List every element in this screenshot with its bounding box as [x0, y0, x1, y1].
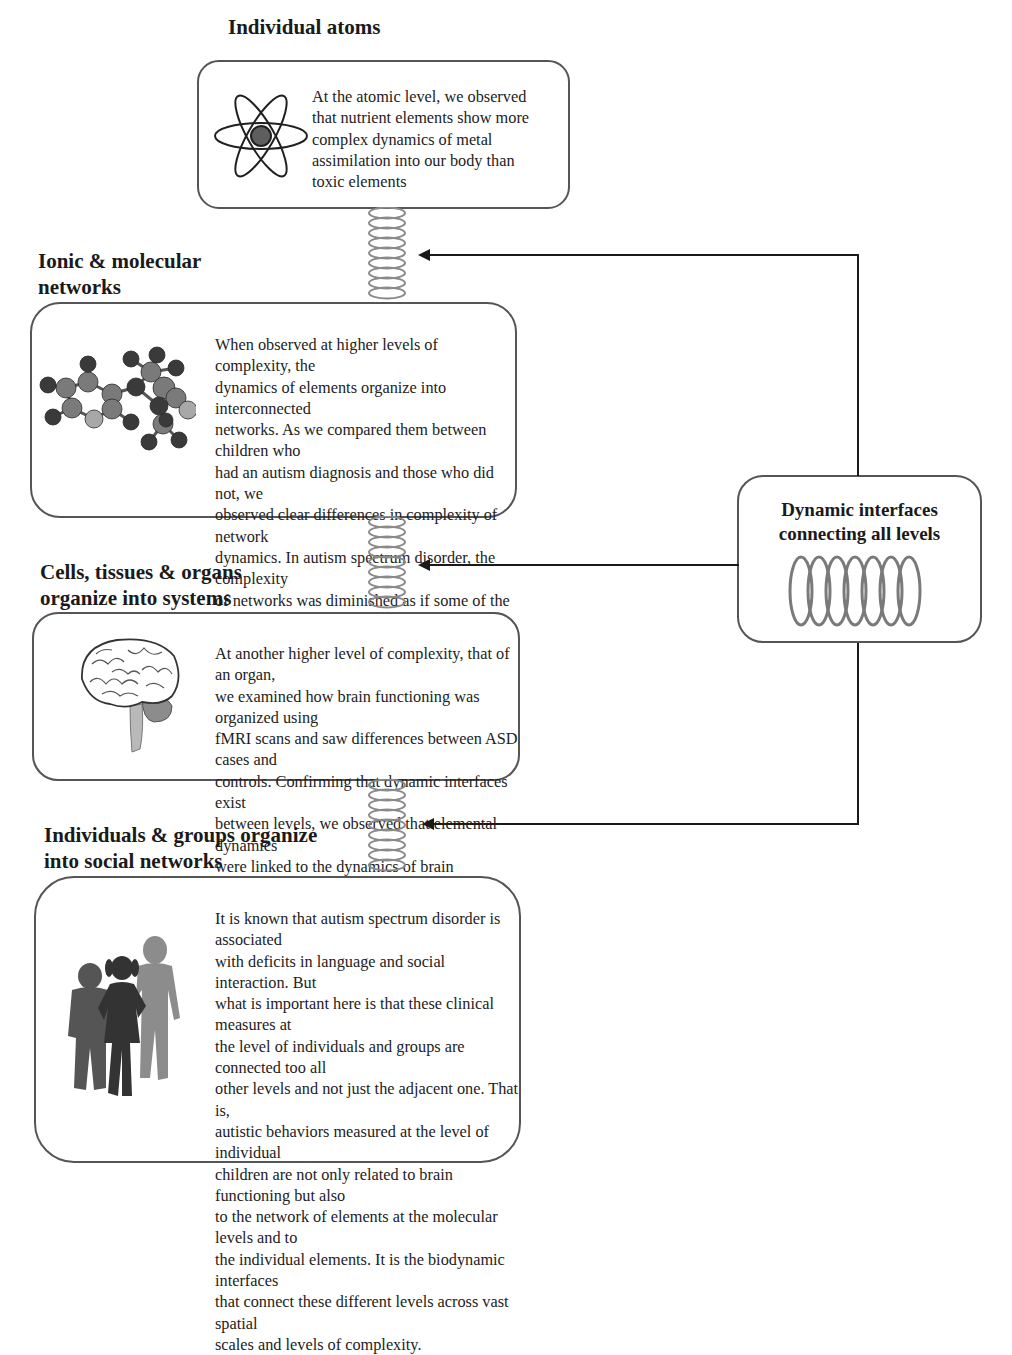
heading-line: organize into systems	[40, 585, 242, 611]
children-group-icon	[60, 928, 190, 1108]
text-line: what is important here is that these cli…	[215, 993, 520, 1036]
helix-spring-icon	[787, 555, 933, 627]
text-line: dynamics of elements organize into inter…	[215, 377, 515, 420]
text-line: autistic behaviors measured at the level…	[215, 1121, 520, 1164]
text-line: that nutrient elements show more	[312, 107, 572, 128]
heading-line: into social networks	[44, 848, 317, 874]
text-line: It is known that autism spectrum disorde…	[215, 908, 520, 951]
text-line: complex dynamics of metal	[312, 129, 572, 150]
text-line: assimilation into our body than	[312, 150, 572, 171]
box-dynamic-interfaces: Dynamic interfaces connecting all levels	[737, 475, 982, 643]
text-line: dynamics. In autism spectrum disorder, t…	[215, 547, 515, 590]
heading-line: Cells, tissues & organs	[40, 559, 242, 585]
text-line: we examined how brain functioning was or…	[215, 686, 520, 729]
heading-individuals-groups: Individuals & groups organize into socia…	[44, 822, 317, 874]
atoms-description: At the atomic level, we observed that nu…	[312, 86, 572, 192]
text-line: the individual elements. It is the biody…	[215, 1249, 520, 1292]
brain-icon	[72, 634, 184, 756]
box-cells-tissues-organs: At another higher level of complexity, t…	[32, 612, 520, 781]
arrow-line-cells	[428, 564, 739, 566]
heading-cells-tissues-organs: Cells, tissues & organs organize into sy…	[40, 559, 242, 611]
text-line: toxic elements	[312, 171, 572, 192]
heading-line: Ionic & molecular	[38, 248, 201, 274]
heading-individual-atoms: Individual atoms	[228, 14, 380, 40]
text-line: that connect these different levels acro…	[215, 1291, 520, 1334]
text-line: other levels and not just the adjacent o…	[215, 1078, 520, 1121]
text-line: the level of individuals and groups are …	[215, 1036, 520, 1079]
box-individual-atoms: At the atomic level, we observed that nu…	[197, 60, 570, 209]
text-line: When observed at higher levels of comple…	[215, 334, 515, 377]
molecular-description: When observed at higher levels of comple…	[215, 334, 515, 653]
heading-line: Individual atoms	[228, 15, 380, 39]
title-line: Dynamic interfaces	[739, 498, 980, 522]
arrowhead-left-icon	[418, 559, 430, 571]
arrowhead-left-icon	[422, 818, 434, 830]
spring-connector-icon	[366, 516, 408, 612]
connector-line-top	[857, 254, 859, 476]
box-individuals-groups: It is known that autism spectrum disorde…	[34, 876, 521, 1163]
text-line: had an autism diagnosis and those who di…	[215, 462, 515, 505]
arrow-line-individuals	[432, 823, 859, 825]
text-line: with deficits in language and social int…	[215, 951, 520, 994]
heading-line: networks	[38, 274, 201, 300]
molecule-icon	[36, 342, 196, 452]
spring-connector-icon	[366, 779, 408, 877]
social-networks-description: It is known that autism spectrum disorde…	[215, 908, 520, 1355]
text-line: At another higher level of complexity, t…	[215, 643, 520, 686]
box-ionic-molecular: When observed at higher levels of comple…	[30, 302, 517, 518]
dynamic-interfaces-title: Dynamic interfaces connecting all levels	[739, 498, 980, 546]
text-line: networks. As we compared them between ch…	[215, 419, 515, 462]
title-line: connecting all levels	[739, 522, 980, 546]
text-line: to the network of elements at the molecu…	[215, 1206, 520, 1249]
connector-line-bottom	[857, 643, 859, 825]
arrowhead-left-icon	[418, 249, 430, 261]
atom-icon	[211, 90, 311, 182]
text-line: At the atomic level, we observed	[312, 86, 572, 107]
spring-connector-icon	[366, 207, 408, 303]
text-line: scales and levels of complexity.	[215, 1334, 520, 1355]
arrow-line-ionic	[428, 254, 859, 256]
text-line: children are not only related to brain f…	[215, 1164, 520, 1207]
text-line: fMRI scans and saw differences between A…	[215, 728, 520, 771]
text-line: observed clear differences in complexity…	[215, 504, 515, 547]
heading-line: Individuals & groups organize	[44, 822, 317, 848]
heading-ionic-molecular-networks: Ionic & molecular networks	[38, 248, 201, 300]
